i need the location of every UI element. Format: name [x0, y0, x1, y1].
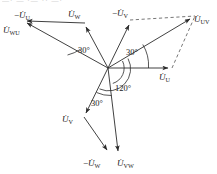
label-u-u: U̇U [159, 72, 171, 83]
vector-u-wu [27, 21, 85, 23]
label-u-vw: U̇VW [117, 158, 134, 169]
label-minus-u-v: −U̇V [112, 8, 129, 19]
vector-u-vw [108, 68, 118, 151]
label-u-wu: U̇WU [3, 25, 20, 36]
dashed-line-top [130, 16, 195, 20]
label-minus-u-w: −U̇W [83, 158, 101, 169]
label-u-v: U̇V [62, 114, 74, 125]
phasor-diagram: −U̇U U̇W U̇WU −U̇V U̇UV U̇U U̇V −U̇W U̇V… [0, 0, 217, 174]
angle-center-120: 120° [115, 83, 131, 93]
dashed-line-right [172, 16, 195, 68]
label-minus-u-u: −U̇U [14, 10, 31, 21]
arc-upper-right-30 [143, 45, 149, 69]
angle-upper-left-30: 30° [78, 45, 90, 55]
label-u-w: U̇W [68, 9, 81, 20]
label-u-uv: U̇UV [194, 14, 210, 25]
vector-diagram-page: —· — ·— ·· —· [0, 0, 217, 174]
angle-upper-right-30: 30° [126, 47, 138, 57]
vector-minus-u-w [84, 117, 107, 150]
arc-lower-left-30 [97, 93, 112, 96]
angle-lower-left-30: 30° [91, 98, 103, 108]
